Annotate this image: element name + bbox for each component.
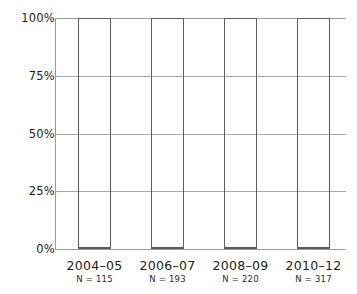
x-axis-label-2010-12: 2010–12 — [258, 258, 357, 273]
bar-2010-12[interactable] — [297, 18, 330, 249]
x-axis-sample-size-2010-12: N = 317 — [258, 274, 357, 285]
x-axis-label-group-2010-12: 2010–12 N = 317 — [258, 258, 357, 285]
bar-segment-medium-2006-07 — [152, 248, 183, 249]
bar-2006-07[interactable] — [151, 18, 184, 249]
bar-group-2010-12 — [297, 18, 330, 249]
x-axis-line — [55, 249, 346, 250]
bar-2008-09[interactable] — [224, 18, 257, 249]
bar-segment-medium-2010-12 — [298, 248, 329, 249]
bar-group-2006-07 — [151, 18, 184, 249]
bar-segment-medium-2004-05 — [79, 248, 110, 249]
bar-segment-medium-2008-09 — [225, 248, 256, 249]
y-tick-label-0: 0% — [7, 242, 55, 256]
bar-group-2004-05 — [78, 18, 111, 249]
bar-group-2008-09 — [224, 18, 257, 249]
y-tick-label-25: 25% — [7, 184, 55, 198]
y-tick-label-50: 50% — [7, 127, 55, 141]
y-tick-label-75: 75% — [7, 69, 55, 83]
bar-2004-05[interactable] — [78, 18, 111, 249]
y-tick-label-100: 100% — [7, 11, 55, 25]
stacked-bar-chart: 100% 75% 50% 25% 0% — [0, 0, 357, 294]
